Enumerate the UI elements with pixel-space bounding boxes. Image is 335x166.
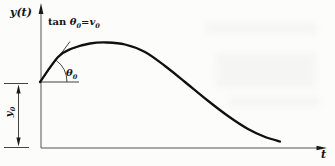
angle-label: θ0 — [66, 67, 78, 81]
y0-dimension-arrow-up-icon — [16, 85, 20, 94]
y-axis-arrowhead-icon — [39, 3, 44, 14]
initial-value-label: y0 — [3, 106, 17, 118]
y0-dimension-arrow-down-icon — [16, 138, 20, 147]
y-axis-label: y(t) — [9, 6, 32, 19]
v-subscript: 0 — [95, 22, 100, 30]
tan-text: tan — [48, 16, 70, 27]
response-curve — [40, 42, 280, 141]
equals-sign: = — [81, 16, 89, 27]
plot-svg: y(t) t tan θ0=v0 θ0 y0 — [0, 0, 335, 166]
figure-canvas: y(t) t tan θ0=v0 θ0 y0 — [0, 0, 335, 166]
tangent-annotation: tan θ0=v0 — [48, 16, 100, 30]
t-axis-label: t — [321, 148, 326, 161]
y0-subscript: 0 — [9, 106, 17, 111]
angle-subscript: 0 — [73, 73, 78, 81]
